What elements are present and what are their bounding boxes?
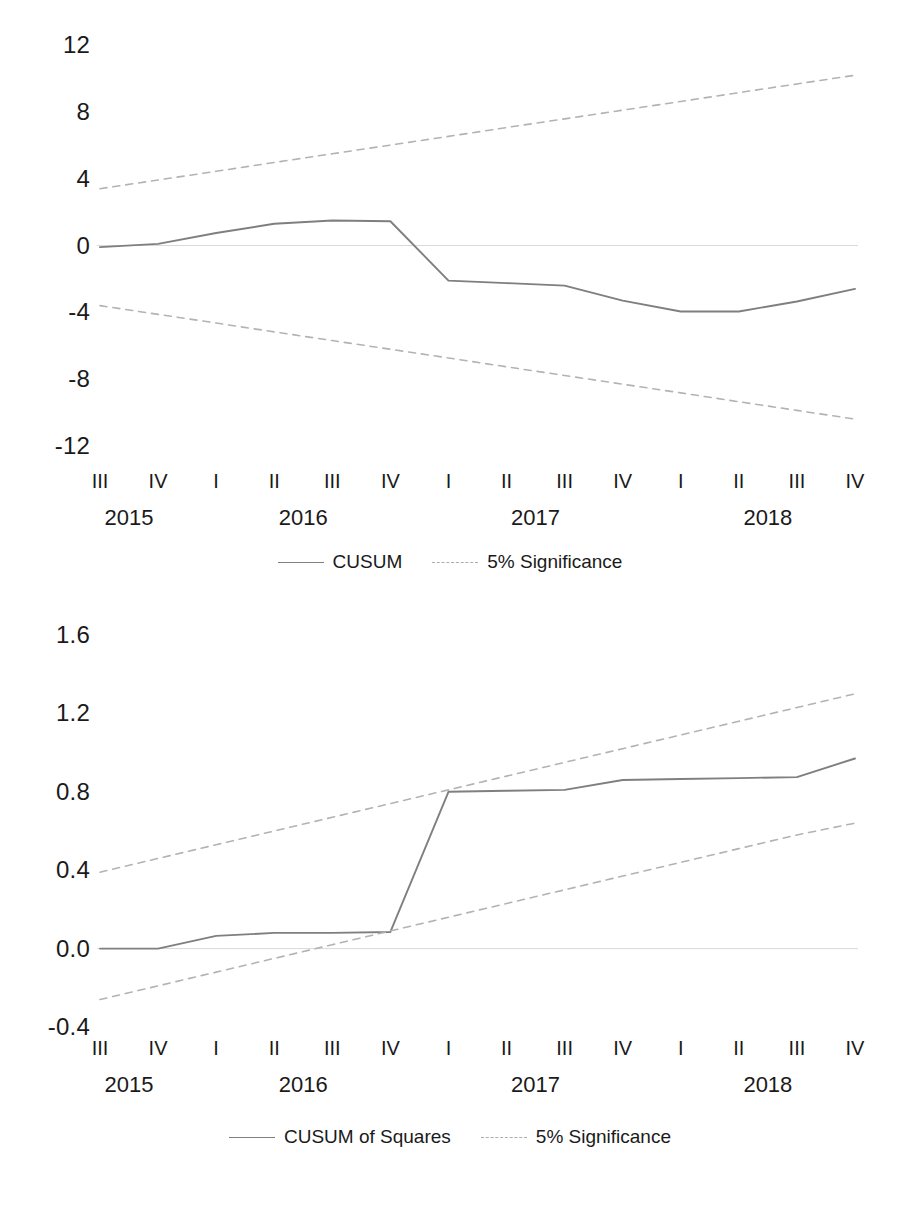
cusum-legend: CUSUM5% Significance (0, 552, 900, 572)
x-axis-group-label: 2017 (511, 505, 560, 531)
x-tick-label: IV (149, 470, 168, 492)
x-tick-label: IV (613, 1037, 632, 1059)
x-axis-group-label: 2017 (511, 1072, 560, 1098)
x-tick-label: II (269, 470, 280, 492)
cusum-of-squares-x-axis-year-groups: 2015201620172018 (0, 1072, 900, 1102)
series-line-bound-1 (100, 75, 855, 188)
legend-label: 5% Significance (487, 552, 622, 572)
cusum-x-axis-year-groups: 2015201620172018 (0, 505, 900, 535)
x-axis-group-label: 2016 (279, 505, 328, 531)
series-line-main (100, 220, 855, 311)
cusum-of-squares-plot-area (0, 600, 900, 1040)
x-tick-label: II (733, 1037, 744, 1059)
legend-item[interactable]: CUSUM (278, 552, 403, 572)
x-tick-label: III (324, 1037, 341, 1059)
cusum-of-squares-x-axis-ticks: IIIIVIIIIIIIVIIIIIIIVIIIIIIIV (0, 1037, 900, 1065)
series-line-main (100, 758, 855, 948)
x-tick-label: III (324, 470, 341, 492)
x-tick-label: I (446, 1037, 452, 1059)
x-axis-group-label: 2018 (743, 505, 792, 531)
cusum-of-squares-legend: CUSUM of Squares5% Significance (0, 1127, 900, 1147)
x-tick-label: II (501, 1037, 512, 1059)
cusum-of-squares-chart: 1.61.20.80.40.0-0.4 IIIIVIIIIIIIVIIIIIII… (0, 600, 900, 1217)
legend-solid-line-icon (229, 1137, 275, 1138)
legend-dashed-line-icon (481, 1137, 527, 1138)
legend-label: CUSUM (333, 552, 403, 572)
cusum-x-axis-ticks: IIIIVIIIIIIIVIIIIIIIVIIIIIIIV (0, 470, 900, 498)
series-line-bound-2 (100, 823, 855, 999)
series-line-bound-2 (100, 306, 855, 419)
x-tick-label: I (213, 1037, 219, 1059)
x-tick-label: III (556, 1037, 573, 1059)
x-axis-group-label: 2018 (743, 1072, 792, 1098)
cusum-chart: 12840-4-8-12 IIIIVIIIIIIIVIIIIIIIVIIIIII… (0, 0, 900, 600)
legend-dashed-line-icon (432, 562, 478, 563)
legend-item[interactable]: CUSUM of Squares (229, 1127, 451, 1147)
x-tick-label: IV (846, 1037, 865, 1059)
x-tick-label: II (733, 470, 744, 492)
x-tick-label: II (501, 470, 512, 492)
legend-item[interactable]: 5% Significance (481, 1127, 671, 1147)
x-axis-group-label: 2015 (105, 505, 154, 531)
x-tick-label: III (556, 470, 573, 492)
legend-label: CUSUM of Squares (284, 1127, 451, 1147)
x-tick-label: I (213, 470, 219, 492)
series-line-bound-1 (100, 694, 855, 872)
cusum-plot-area (0, 0, 900, 470)
x-tick-label: I (678, 470, 684, 492)
legend-item[interactable]: 5% Significance (432, 552, 622, 572)
x-tick-label: III (92, 470, 109, 492)
x-tick-label: IV (381, 1037, 400, 1059)
x-tick-label: I (678, 1037, 684, 1059)
x-axis-group-label: 2016 (279, 1072, 328, 1098)
x-tick-label: III (92, 1037, 109, 1059)
x-tick-label: III (789, 470, 806, 492)
x-tick-label: III (789, 1037, 806, 1059)
x-tick-label: II (269, 1037, 280, 1059)
x-axis-group-label: 2015 (105, 1072, 154, 1098)
x-tick-label: IV (846, 470, 865, 492)
x-tick-label: IV (613, 470, 632, 492)
x-tick-label: IV (381, 470, 400, 492)
legend-label: 5% Significance (536, 1127, 671, 1147)
x-tick-label: IV (149, 1037, 168, 1059)
legend-solid-line-icon (278, 562, 324, 563)
x-tick-label: I (446, 470, 452, 492)
